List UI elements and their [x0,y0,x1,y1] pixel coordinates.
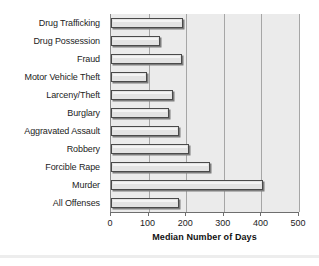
x-tick-label-400: 400 [253,218,268,228]
x-tick-400 [260,212,261,216]
bar-fraud [111,54,182,64]
category-label-forcible-rape: Forcible Rape [0,162,104,172]
bar-robbery [111,144,189,154]
bar-drug-trafficking [111,18,183,28]
bar-row [111,32,299,50]
bar-row [111,122,299,140]
bar-row [111,176,299,194]
bar-murder [111,180,263,190]
category-label-robbery: Robbery [0,144,104,154]
category-label-drug-trafficking: Drug Trafficking [0,18,104,28]
bar-row [111,194,299,212]
x-axis-title: Median Number of Days [110,232,299,242]
plot-area [110,14,299,212]
gridline-500 [299,14,300,212]
bottom-divider [0,255,319,258]
x-tick-500 [298,212,299,216]
bar-motor-vehicle-theft [111,72,147,82]
bar-burglary [111,108,169,118]
x-tick-label-500: 500 [290,218,305,228]
x-tick-200 [185,212,186,216]
category-label-fraud: Fraud [0,54,104,64]
category-axis-labels: Drug Trafficking Drug Possession Fraud M… [0,14,104,212]
category-label-all-offenses: All Offenses [0,198,104,208]
bar-larceny-theft [111,90,173,100]
category-label-murder: Murder [0,180,104,190]
median-days-bar-chart: Drug Trafficking Drug Possession Fraud M… [0,0,319,266]
category-label-aggravated-assault: Aggravated Assault [0,126,104,136]
x-tick-300 [223,212,224,216]
x-tick-100 [148,212,149,216]
bar-row [111,158,299,176]
bar-series [111,14,299,212]
bar-row [111,86,299,104]
x-tick-label-300: 300 [215,218,230,228]
bar-aggravated-assault [111,126,179,136]
bar-row [111,68,299,86]
bar-drug-possession [111,36,160,46]
x-tick-label-100: 100 [140,218,155,228]
bar-row [111,104,299,122]
category-label-burglary: Burglary [0,108,104,118]
category-label-drug-possession: Drug Possession [0,36,104,46]
bar-forcible-rape [111,162,210,172]
x-tick-label-200: 200 [178,218,193,228]
category-label-motor-vehicle-theft: Motor Vehicle Theft [0,72,104,82]
category-label-larceny-theft: Larceny/Theft [0,90,104,100]
x-axis-line [110,212,299,213]
x-tick-label-0: 0 [107,218,112,228]
bar-row [111,140,299,158]
bar-row [111,14,299,32]
bar-all-offenses [111,198,179,208]
x-tick-0 [110,212,111,216]
bar-row [111,50,299,68]
